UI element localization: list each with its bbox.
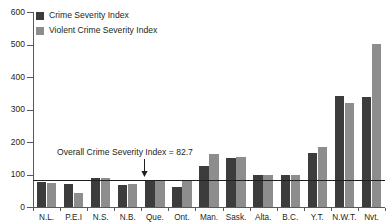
x-axis-tick bbox=[223, 208, 224, 211]
x-axis-label-que: Que. bbox=[146, 213, 164, 222]
legend-item-crime-severity-index: Crime Severity Index bbox=[36, 9, 157, 22]
bars-layer bbox=[33, 12, 385, 207]
y-axis-tick-label: 200 bbox=[0, 138, 25, 147]
bar-sask-crime-severity bbox=[226, 158, 235, 207]
bar-ns-violent-crime-severity bbox=[101, 178, 110, 207]
bar-ns-crime-severity bbox=[91, 178, 100, 207]
overall-reference-line bbox=[33, 180, 385, 181]
x-axis-tick bbox=[33, 208, 34, 211]
x-axis-tick bbox=[114, 208, 115, 211]
overall-reference-label: Overall Crime Severity Index = 82.7 bbox=[57, 147, 193, 157]
legend-swatch-icon bbox=[36, 27, 44, 35]
x-axis-label-nl: N.L. bbox=[39, 213, 54, 222]
bar-nl-crime-severity bbox=[37, 182, 46, 207]
y-axis-tick-label: 500 bbox=[0, 40, 25, 49]
y-axis-tick-label: 300 bbox=[0, 105, 25, 114]
legend-label: Crime Severity Index bbox=[49, 11, 129, 20]
x-axis-tick bbox=[60, 208, 61, 211]
x-axis-tick bbox=[331, 208, 332, 211]
legend-item-violent-crime-severity-index: Violent Crime Severity Index bbox=[36, 24, 157, 37]
bar-man-crime-severity bbox=[199, 166, 208, 207]
x-axis-label-sask: Sask. bbox=[226, 213, 246, 222]
x-axis-label-ont: Ont. bbox=[174, 213, 189, 222]
bar-ont-violent-crime-severity bbox=[182, 181, 191, 207]
x-axis-label-nvt: Nvt. bbox=[364, 213, 379, 222]
x-axis-tick bbox=[304, 208, 305, 211]
x-axis-tick bbox=[168, 208, 169, 211]
y-axis-tick-label: 100 bbox=[0, 170, 25, 179]
bar-nb-violent-crime-severity bbox=[128, 184, 137, 207]
y-axis-tick-label: 400 bbox=[0, 73, 25, 82]
x-axis-tick bbox=[277, 208, 278, 211]
bar-nvt-violent-crime-severity bbox=[372, 44, 381, 207]
x-axis-label-yt: Y.T. bbox=[311, 213, 324, 222]
x-axis-tick bbox=[250, 208, 251, 211]
x-axis-label-alta: Alta. bbox=[255, 213, 271, 222]
x-axis-label-nwt: N.W.T. bbox=[332, 213, 356, 222]
bar-que-crime-severity bbox=[145, 181, 154, 207]
bar-nwt-violent-crime-severity bbox=[345, 103, 354, 207]
legend-label: Violent Crime Severity Index bbox=[49, 26, 157, 35]
x-axis-tick bbox=[141, 208, 142, 211]
x-axis-tick bbox=[195, 208, 196, 211]
legend-swatch-icon bbox=[36, 12, 44, 20]
bar-pei-crime-severity bbox=[64, 184, 73, 207]
x-axis-label-ns: N.S. bbox=[93, 213, 109, 222]
bar-sask-violent-crime-severity bbox=[236, 157, 245, 207]
x-axis-label-nb: N.B. bbox=[120, 213, 136, 222]
x-axis-label-pei: P.E.I bbox=[65, 213, 82, 222]
bar-yt-violent-crime-severity bbox=[318, 147, 327, 207]
bar-nb-crime-severity bbox=[118, 185, 127, 207]
bar-nl-violent-crime-severity bbox=[47, 183, 56, 207]
chart-legend: Crime Severity IndexViolent Crime Severi… bbox=[36, 9, 157, 39]
x-axis-label-man: Man. bbox=[200, 213, 218, 222]
x-axis-tick bbox=[87, 208, 88, 211]
bar-nvt-crime-severity bbox=[362, 97, 371, 208]
y-axis-tick-label: 600 bbox=[0, 8, 25, 17]
y-axis-tick-label: 0 bbox=[0, 203, 25, 212]
x-axis-tick bbox=[358, 208, 359, 211]
x-axis-label-bc: B.C. bbox=[282, 213, 298, 222]
bar-ont-crime-severity bbox=[172, 187, 181, 207]
crime-severity-index-bar-chart: 0100200300400500600 N.L.P.E.IN.S.N.B.Que… bbox=[0, 0, 391, 224]
x-axis-line bbox=[33, 207, 385, 208]
arrow-down-icon bbox=[140, 159, 149, 177]
x-axis-tick bbox=[385, 208, 386, 211]
bar-nwt-crime-severity bbox=[335, 96, 344, 207]
bar-que-violent-crime-severity bbox=[155, 181, 164, 207]
bar-pei-violent-crime-severity bbox=[74, 193, 83, 207]
